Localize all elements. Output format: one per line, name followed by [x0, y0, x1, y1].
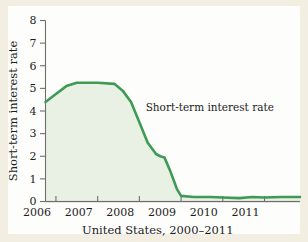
y-tick-label: 3 — [30, 127, 37, 140]
short-term-interest-rate-chart: 012345678 200620072008200920102011 Short… — [0, 0, 308, 242]
series-annotation-label: Short-term interest rate — [146, 101, 274, 113]
x-tick-label: 2009 — [148, 206, 176, 219]
x-tick-label: 2006 — [23, 206, 51, 219]
y-tick-label: 7 — [30, 37, 37, 50]
x-tick-label: 2008 — [106, 206, 134, 219]
y-axis-title: Short-term interest rate — [6, 41, 20, 182]
y-axis-tick-labels: 012345678 — [30, 14, 37, 208]
x-tick-label: 2007 — [65, 206, 93, 219]
y-axis-ticks — [40, 21, 46, 202]
x-axis-title: United States, 2000–2011 — [82, 223, 234, 237]
x-tick-label: 2011 — [232, 206, 260, 219]
chart-figure: 012345678 200620072008200920102011 Short… — [0, 0, 308, 242]
x-axis-tick-labels: 200620072008200920102011 — [23, 206, 260, 219]
y-tick-label: 2 — [30, 150, 37, 163]
y-tick-label: 6 — [30, 60, 37, 73]
y-tick-label: 8 — [30, 14, 37, 27]
y-tick-label: 4 — [30, 105, 37, 118]
x-tick-label: 2010 — [190, 206, 218, 219]
y-tick-label: 1 — [30, 173, 37, 186]
y-tick-label: 5 — [30, 82, 37, 95]
